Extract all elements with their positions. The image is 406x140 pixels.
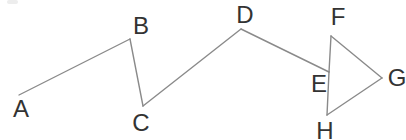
segment-FG bbox=[331, 36, 382, 78]
vertex-label-D: D bbox=[236, 3, 253, 27]
segment-DE bbox=[241, 29, 329, 72]
vertex-label-H: H bbox=[316, 119, 333, 140]
vertex-label-G: G bbox=[388, 66, 406, 90]
diagram-canvas: A B C D E F G H bbox=[0, 0, 406, 140]
vertex-label-B: B bbox=[133, 14, 149, 38]
segment-AB bbox=[19, 39, 130, 95]
segment-FE bbox=[329, 36, 331, 72]
segment-CD bbox=[143, 29, 241, 106]
vertex-label-E: E bbox=[311, 72, 327, 96]
vertex-label-A: A bbox=[13, 97, 29, 121]
segment-GH bbox=[327, 78, 382, 115]
vertex-label-F: F bbox=[331, 5, 346, 29]
vertex-label-C: C bbox=[132, 111, 149, 135]
segment-EH bbox=[327, 72, 329, 115]
segment-BC bbox=[130, 39, 143, 106]
